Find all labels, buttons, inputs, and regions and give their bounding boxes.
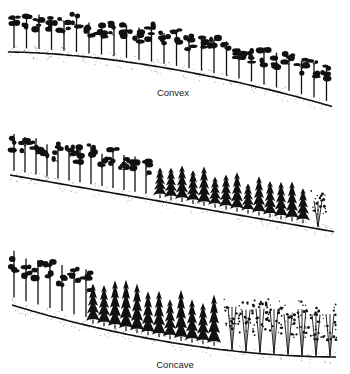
tree-crown	[176, 28, 182, 31]
broadleaf-leaf	[312, 334, 314, 336]
broadleaf-leaf	[324, 325, 325, 326]
broadleaf-leaf	[302, 305, 304, 307]
broadleaf-leaf	[270, 309, 272, 311]
broadleaf-leaf	[251, 312, 253, 314]
broadleaf-leaf	[262, 326, 264, 328]
broadleaf-leaf	[226, 306, 229, 309]
broadleaf-leaf	[235, 312, 237, 314]
broadleaf-leaf	[319, 197, 322, 200]
broadleaf-leaf	[310, 317, 313, 320]
broadleaf-leaf	[315, 202, 318, 205]
label-convex: Convex	[123, 87, 223, 98]
conifer-tree	[208, 177, 222, 205]
broadleaf-leaf	[259, 303, 262, 306]
broadleaf-leaf	[278, 332, 279, 333]
broadleaf-leaf	[292, 312, 293, 313]
broadleaf-leaf	[312, 207, 314, 209]
broadleaf-leaf	[269, 311, 271, 313]
broadleaf-leaf	[319, 321, 321, 323]
broadleaf-leaf	[325, 208, 327, 210]
broadleaf-leaf	[284, 305, 285, 306]
broadleaf-leaf	[280, 332, 282, 334]
broadleaf-leaf	[238, 320, 240, 322]
broadleaf-leaf	[317, 321, 319, 323]
broadleaf-leaf	[266, 318, 268, 320]
broadleaf-leaf	[270, 305, 271, 306]
broadleaf-leaf	[310, 314, 312, 316]
broadleaf-leaf	[296, 327, 298, 329]
broadleaf-leaf	[253, 324, 255, 326]
conifer-tree	[263, 181, 277, 215]
broadleaf-leaf	[245, 317, 247, 319]
broadleaf-leaf	[313, 338, 315, 340]
broadleaf-leaf	[322, 314, 323, 315]
broadleaf-leaf	[292, 318, 294, 320]
broadleaf-leaf	[252, 304, 254, 306]
conifer-tree	[197, 167, 211, 203]
broadleaf-leaf	[303, 310, 306, 313]
broadleaf-leaf	[237, 323, 239, 325]
conifer-tree	[108, 280, 122, 326]
broadleaf-leaf	[320, 195, 322, 197]
tree-crown	[77, 153, 85, 159]
tree-crown	[226, 47, 231, 51]
broadleaf-stem	[330, 314, 334, 356]
broadleaf-leaf	[261, 303, 264, 306]
conifer-tree	[97, 285, 111, 323]
broadleaf-leaf	[335, 329, 337, 331]
broadleaf-leaf	[246, 330, 248, 332]
panel-concave	[8, 251, 337, 364]
conifer-tree	[296, 188, 310, 220]
broadleaf-leaf	[238, 317, 240, 319]
conifer-tree	[241, 184, 255, 211]
broadleaf-leaf	[235, 323, 237, 325]
broadleaf-leaf	[267, 298, 269, 300]
broadleaf-stem	[256, 308, 260, 352]
broadleaf-leaf	[289, 316, 291, 318]
conifer-tree	[230, 172, 244, 208]
conifer-tree	[119, 280, 133, 328]
broadleaf-leaf	[294, 320, 296, 322]
broadleaf-leaf	[279, 301, 280, 302]
broadleaf-leaf	[300, 300, 302, 302]
broadleaf-leaf	[317, 209, 319, 211]
broadleaf-leaf	[305, 305, 306, 306]
broadleaf-leaf	[282, 307, 284, 309]
broadleaf-leaf	[324, 335, 326, 337]
broadleaf-leaf	[317, 214, 318, 215]
broadleaf-leaf	[300, 315, 302, 317]
broadleaf-leaf	[265, 304, 268, 307]
broadleaf-leaf	[315, 198, 316, 199]
slope-diagram	[0, 0, 350, 374]
broadleaf-leaf	[286, 313, 289, 316]
broadleaf-leaf	[228, 315, 229, 316]
broadleaf-leaf	[224, 307, 226, 309]
broadleaf-leaf	[254, 334, 256, 336]
broadleaf-leaf	[280, 324, 282, 326]
broadleaf-leaf	[334, 314, 337, 317]
broadleaf-leaf	[293, 322, 296, 325]
broadleaf-leaf	[272, 325, 274, 327]
broadleaf-leaf	[277, 311, 280, 314]
broadleaf-leaf	[305, 327, 306, 328]
broadleaf-leaf	[278, 309, 280, 311]
broadleaf-leaf	[316, 314, 318, 316]
broadleaf-leaf	[319, 205, 322, 208]
conifer-tree	[130, 284, 144, 331]
broadleaf-leaf	[314, 333, 316, 335]
broadleaf-leaf	[333, 310, 335, 312]
broadleaf-leaf	[239, 312, 242, 315]
broadleaf-leaf	[251, 309, 254, 312]
broadleaf-stem	[326, 314, 330, 356]
broadleaf-leaf	[330, 338, 332, 340]
broadleaf-leaf	[285, 321, 286, 322]
broadleaf-leaf	[248, 318, 251, 321]
broadleaf-leaf	[303, 331, 306, 334]
broadleaf-leaf	[323, 205, 326, 208]
conifer-tree	[219, 174, 233, 206]
broadleaf-leaf	[315, 326, 316, 327]
tree-crown	[293, 63, 300, 66]
conifer-tree	[163, 299, 177, 336]
broadleaf-leaf	[304, 326, 306, 328]
tree-crown	[60, 275, 66, 280]
